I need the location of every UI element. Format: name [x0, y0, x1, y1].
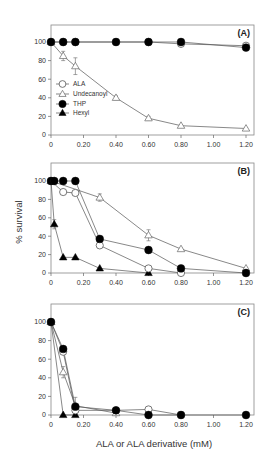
y-tick-label: 20	[38, 393, 46, 400]
plot-frame	[51, 304, 254, 415]
filled-triangle-marker-icon	[59, 109, 66, 115]
filled-circle-marker-icon	[71, 403, 79, 411]
series-line-undecanoyl	[51, 322, 116, 413]
series-line-undecanoyl	[51, 181, 246, 268]
x-tick-label: 0.60	[142, 141, 156, 148]
x-tick-label: 0.20	[77, 141, 91, 148]
x-tick-label: 1.20	[239, 141, 253, 148]
open-circle-marker-icon	[145, 265, 152, 272]
y-tick-label: 60	[38, 356, 46, 363]
legend-item-hexyl: Hexyl	[56, 109, 90, 117]
filled-circle-marker-icon	[50, 177, 58, 185]
filled-triangle-marker-icon	[96, 265, 104, 271]
filled-circle-marker-icon	[177, 265, 185, 273]
series-line-thp	[51, 322, 246, 415]
filled-triangle-marker-icon	[59, 411, 67, 417]
open-triangle-marker-icon	[242, 125, 250, 131]
filled-circle-marker-icon	[145, 246, 153, 254]
filled-circle-marker-icon	[71, 177, 79, 185]
open-triangle-marker-icon	[59, 368, 67, 374]
y-tick-label: 0	[42, 411, 46, 418]
filled-circle-marker-icon	[47, 318, 55, 326]
legend-label: ALA	[73, 80, 86, 87]
open-triangle-marker-icon	[177, 245, 185, 251]
x-tick-label: 0.20	[77, 279, 91, 286]
x-tick-label: 0	[49, 141, 53, 148]
panel-label: (C)	[238, 307, 251, 317]
plot-frame	[51, 163, 254, 273]
x-axis-label: ALA or ALA derivative (mM)	[96, 438, 212, 449]
filled-circle-marker-icon	[59, 177, 67, 185]
x-tick-label: 0.80	[174, 279, 188, 286]
legend-item-ala: ALA	[56, 80, 86, 87]
open-triangle-marker-icon	[145, 114, 153, 120]
filled-circle-marker-icon	[59, 345, 67, 353]
filled-circle-marker-icon	[71, 38, 79, 46]
filled-circle-marker-icon	[96, 235, 104, 243]
y-tick-label: 20	[38, 251, 46, 258]
y-tick-label: 100	[34, 38, 46, 45]
open-circle-marker-icon	[60, 188, 67, 195]
filled-circle-marker-icon	[177, 38, 185, 46]
open-circle-marker-icon	[72, 189, 79, 196]
x-tick-label: 0.60	[142, 279, 156, 286]
x-tick-label: 1.00	[207, 279, 221, 286]
panel-label: (A)	[238, 28, 251, 38]
panel-label: (B)	[238, 166, 251, 176]
x-tick-label: 0.40	[109, 279, 123, 286]
legend-label: THP	[73, 100, 86, 107]
open-circle-marker-icon	[59, 81, 66, 88]
filled-circle-marker-icon	[145, 38, 153, 46]
x-tick-label: 0.40	[109, 141, 123, 148]
filled-circle-marker-icon	[177, 411, 185, 419]
series-line-ala	[51, 322, 181, 415]
filled-circle-marker-icon	[47, 38, 55, 46]
panel-b: 02040608010000.200.400.600.801.001.20(B)	[34, 163, 254, 286]
filled-triangle-marker-icon	[59, 253, 67, 259]
x-tick-label: 0.80	[174, 421, 188, 428]
panel-c: 02040608010000.200.400.600.801.001.20(C)	[34, 304, 254, 428]
x-tick-label: 0.20	[77, 421, 91, 428]
legend-item-thp: THP	[56, 100, 86, 107]
open-triangle-marker-icon	[72, 62, 80, 68]
filled-circle-marker-icon	[242, 411, 250, 419]
x-tick-label: 0.80	[174, 141, 188, 148]
y-tick-label: 60	[38, 76, 46, 83]
y-tick-label: 40	[38, 94, 46, 101]
y-tick-label: 80	[38, 57, 46, 64]
y-tick-label: 40	[38, 374, 46, 381]
survival-figure: 02040608010000.200.400.600.801.001.20(A)…	[0, 0, 271, 472]
x-tick-label: 0	[49, 279, 53, 286]
filled-circle-marker-icon	[112, 406, 120, 414]
y-tick-label: 60	[38, 214, 46, 221]
open-triangle-marker-icon	[112, 94, 120, 100]
filled-circle-marker-icon	[145, 411, 153, 419]
y-axis-label: % survival	[13, 200, 24, 243]
filled-circle-marker-icon	[59, 100, 66, 107]
y-tick-label: 100	[34, 177, 46, 184]
x-tick-label: 1.20	[239, 421, 253, 428]
y-tick-label: 0	[42, 131, 46, 138]
x-tick-label: 1.00	[207, 141, 221, 148]
y-tick-label: 0	[42, 269, 46, 276]
y-tick-label: 40	[38, 233, 46, 240]
filled-triangle-marker-icon	[50, 220, 58, 226]
panel-a: 02040608010000.200.400.600.801.001.20(A)…	[34, 25, 254, 148]
open-triangle-marker-icon	[59, 90, 66, 96]
x-tick-label: 0.40	[109, 421, 123, 428]
filled-circle-marker-icon	[112, 38, 120, 46]
panels-container: 02040608010000.200.400.600.801.001.20(A)…	[34, 25, 254, 428]
x-tick-label: 1.00	[207, 421, 221, 428]
legend-item-undecanoyl: Undecanoyl	[56, 90, 108, 98]
y-tick-label: 80	[38, 337, 46, 344]
filled-circle-marker-icon	[242, 269, 250, 277]
series-line-ala	[51, 181, 181, 273]
open-triangle-marker-icon	[145, 231, 153, 237]
x-tick-label: 1.20	[239, 279, 253, 286]
x-tick-label: 0.60	[142, 421, 156, 428]
y-tick-label: 100	[34, 318, 46, 325]
legend-label: Hexyl	[73, 109, 90, 117]
y-tick-label: 20	[38, 113, 46, 120]
filled-circle-marker-icon	[242, 44, 250, 52]
y-tick-label: 80	[38, 196, 46, 203]
